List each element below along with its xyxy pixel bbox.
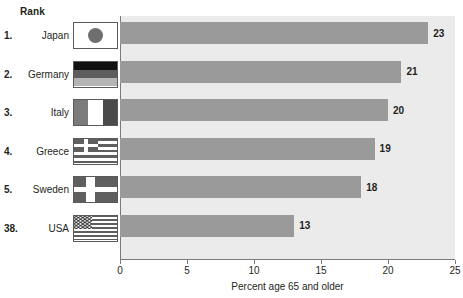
- germany-flag-icon: [73, 61, 118, 88]
- table-row: 1.Japan: [0, 18, 118, 54]
- country-name: Italy: [30, 107, 73, 118]
- flag-canton: [74, 216, 92, 229]
- flag-band: [74, 62, 117, 70]
- rank-value: 5.: [0, 184, 30, 195]
- country-name: Sweden: [30, 184, 73, 195]
- rank-value: 1.: [0, 30, 30, 41]
- x-tick-label: 10: [239, 265, 269, 276]
- country-name: Germany: [28, 69, 73, 80]
- cross-vertical: [86, 177, 95, 202]
- flag-stripe: [74, 239, 117, 241]
- x-axis-line: [120, 259, 455, 260]
- rank-value: 4.: [0, 146, 30, 157]
- x-tick-label: 25: [440, 265, 463, 276]
- bar: [120, 61, 401, 83]
- table-row: 3.Italy: [0, 95, 118, 131]
- table-row: 5.Sweden: [0, 172, 118, 208]
- table-row: 38.USA: [0, 210, 118, 246]
- rank-value: 38.: [0, 223, 30, 234]
- x-axis-label: Percent age 65 and older: [120, 281, 455, 292]
- greece-flag-icon: [73, 138, 118, 165]
- bar-value-label: 13: [299, 215, 310, 237]
- country-name: Greece: [30, 146, 73, 157]
- x-tick-mark: [321, 260, 322, 264]
- flag-stripe: [74, 161, 117, 164]
- japan-sun-disc: [88, 28, 103, 43]
- flag-band: [74, 78, 117, 86]
- bar: [120, 215, 294, 237]
- japan-flag-icon: [73, 22, 118, 49]
- flag-stripe: [74, 155, 117, 158]
- flag-band: [88, 100, 102, 125]
- x-tick-mark: [455, 260, 456, 264]
- flag-band: [74, 70, 117, 78]
- bar: [120, 99, 388, 121]
- table-row: 4.Greece: [0, 133, 118, 169]
- bar-value-label: 18: [366, 176, 377, 198]
- bar-value-label: 21: [406, 61, 417, 83]
- bar: [120, 22, 428, 44]
- x-tick-mark: [187, 260, 188, 264]
- flag-canton: [74, 139, 98, 153]
- country-name: Japan: [30, 30, 73, 41]
- bar: [120, 176, 361, 198]
- x-tick-label: 0: [105, 265, 135, 276]
- rank-column-header: Rank: [20, 6, 80, 17]
- x-tick-mark: [388, 260, 389, 264]
- x-tick-mark: [120, 260, 121, 264]
- flag-band: [103, 100, 117, 125]
- rank-value: 2.: [0, 69, 28, 80]
- sweden-flag-icon: [73, 176, 118, 203]
- x-tick-label: 5: [172, 265, 202, 276]
- cross-horizontal: [74, 187, 117, 193]
- bar: [120, 138, 375, 160]
- stars-field: [74, 216, 92, 229]
- cross-vertical: [84, 139, 89, 153]
- bar-value-label: 20: [393, 99, 404, 121]
- table-row: 2.Germany: [0, 56, 118, 92]
- x-tick-mark: [254, 260, 255, 264]
- italy-flag-icon: [73, 99, 118, 126]
- flag-band: [74, 100, 88, 125]
- bar-value-label: 19: [380, 138, 391, 160]
- flag-stripe: [74, 231, 117, 233]
- bar-value-label: 23: [433, 22, 444, 44]
- x-tick-label: 15: [306, 265, 336, 276]
- flag-stripe: [74, 235, 117, 237]
- country-name: USA: [30, 223, 73, 234]
- usa-flag-icon: [73, 215, 118, 242]
- bar-chart-figure: Rank 1.Japan2.Germany3.Italy4.Greece5.Sw…: [0, 0, 463, 298]
- rank-value: 3.: [0, 107, 30, 118]
- x-tick-label: 20: [373, 265, 403, 276]
